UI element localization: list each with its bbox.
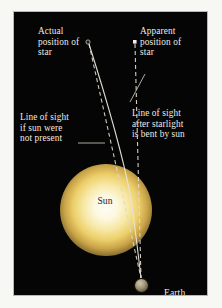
label-line-of-sight-bent: Line of sight after starlight is bent by… — [132, 108, 207, 140]
label-apparent-position: Apparent position of star — [140, 26, 207, 58]
label-sun: Sun — [84, 196, 126, 207]
label-earth: Earth — [164, 288, 207, 295]
earth-body — [135, 279, 148, 292]
straight-line-of-sight — [89, 44, 141, 278]
figure-root: Actual position of star Apparent positio… — [0, 0, 222, 308]
label-line-of-sight-no-sun: Line of sight if sun were not present — [20, 112, 98, 144]
label-actual-position: Actual position of star — [38, 26, 102, 58]
apparent-line-of-sight — [135, 44, 141, 278]
apparent-star-marker — [133, 40, 137, 44]
leader-line-bent — [130, 74, 145, 102]
sky-panel: Actual position of star Apparent positio… — [14, 12, 207, 295]
